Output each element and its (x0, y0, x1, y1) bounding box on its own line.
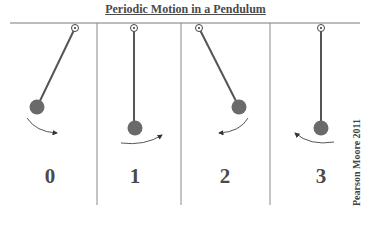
pendulum-panel-1 (121, 25, 162, 144)
pendulum-bob (314, 121, 329, 136)
pendulum-panel-0 (27, 25, 79, 134)
motion-arrow-right (27, 118, 57, 133)
credit-text: Pearson Moore 2011 (351, 119, 362, 206)
motion-arrow-left (219, 118, 248, 133)
panel-label-3: 3 (306, 164, 336, 189)
panel-label-2: 2 (210, 164, 240, 189)
panel-label-1: 1 (120, 164, 150, 189)
pendulum-bob (30, 100, 45, 115)
pendulum-bob (128, 121, 143, 136)
motion-arrow-right (121, 135, 162, 144)
motion-arrow-left (295, 133, 334, 143)
pendulum-bob (232, 100, 247, 115)
pendulum-rod (37, 28, 75, 107)
pendulum-panel-3 (295, 25, 334, 143)
panel-label-0: 0 (35, 164, 65, 189)
pendulum-rod (199, 28, 239, 107)
pendulum-panel-2 (196, 25, 249, 134)
